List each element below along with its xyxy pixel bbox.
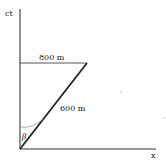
spacetime-diagram: ct x 800 m 600 m β: [0, 0, 166, 165]
horizontal-length-label: 800 m: [39, 53, 65, 62]
x-axis-label: x: [151, 151, 156, 160]
ct-axis-label: ct: [5, 9, 13, 18]
diagonal-length-label: 600 m: [60, 104, 86, 113]
angle-beta-label: β: [21, 132, 27, 141]
stray-dot: [163, 117, 164, 118]
stray-dot: [120, 91, 121, 92]
